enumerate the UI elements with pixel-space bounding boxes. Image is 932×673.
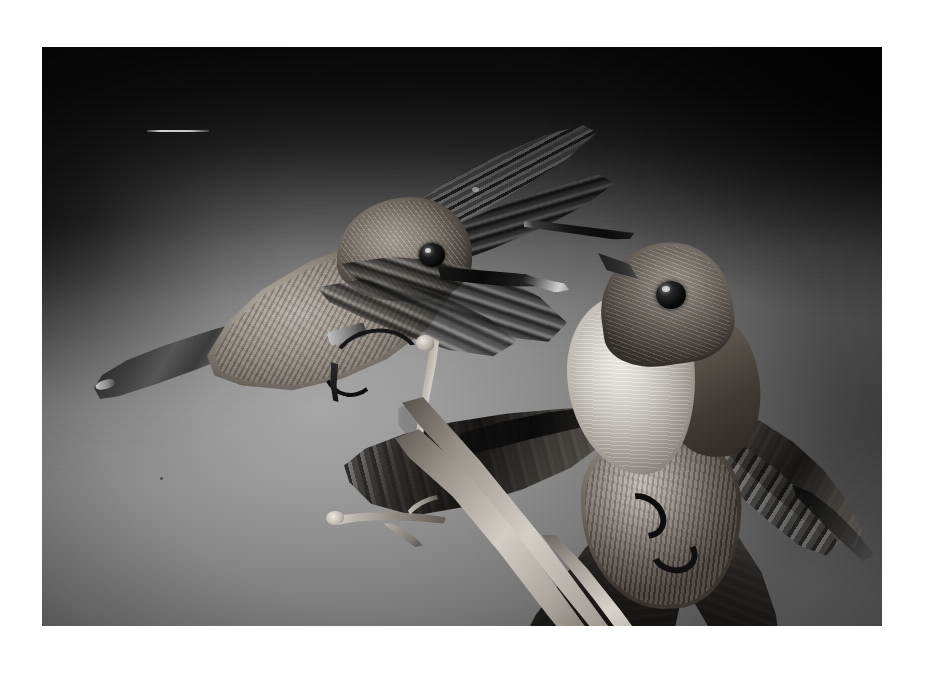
- photograph: [42, 47, 882, 626]
- perched-bird-eye-glint: [662, 286, 670, 292]
- twig: [372, 337, 792, 626]
- page-root: [0, 0, 932, 673]
- perched-bird-bill: [524, 217, 635, 243]
- twig-spur: [384, 523, 424, 549]
- perched-bird-eye: [656, 281, 686, 309]
- dust-speck-light: [472, 187, 479, 192]
- dust-speck-dark: [160, 477, 163, 480]
- twig-upper-tip: [416, 335, 434, 351]
- scratch-mark: [147, 130, 209, 132]
